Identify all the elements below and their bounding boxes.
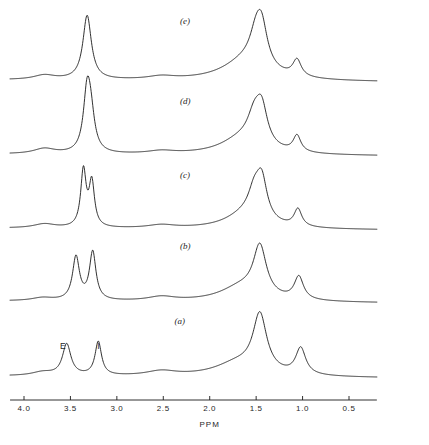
spectrum-trace-b [10,243,377,302]
panel-label-c: (c) [180,170,190,180]
panel-label-d: (d) [180,96,191,106]
spectrum-trace-e [10,9,377,80]
axis-tick-label-2.5: 2.5 [157,404,170,413]
axis-tick-label-3.0: 3.0 [110,404,123,413]
axis-tick-label-1.0: 1.0 [296,404,309,413]
axis-tick-label-3.5: 3.5 [64,404,77,413]
axis-tick-label-4.0: 4.0 [18,404,31,413]
peak-label-E: E [60,341,66,351]
spectra-canvas [0,0,429,445]
axis-tick-label-1.5: 1.5 [250,404,263,413]
peak-label-I: I [97,341,99,351]
spectrum-trace-c [10,166,377,230]
axis-tick-label-2.0: 2.0 [203,404,216,413]
panel-label-b: (b) [180,241,191,251]
axis-tick-label-0.5: 0.5 [343,404,356,413]
spectrum-trace-d [10,76,377,155]
panel-label-a: (a) [174,316,185,326]
nmr-figure: 4.03.53.02.52.01.51.00.5PPM(e)(d)(c)(b)(… [0,0,429,445]
panel-label-e: (e) [180,16,190,26]
axis-title: PPM [200,420,220,429]
